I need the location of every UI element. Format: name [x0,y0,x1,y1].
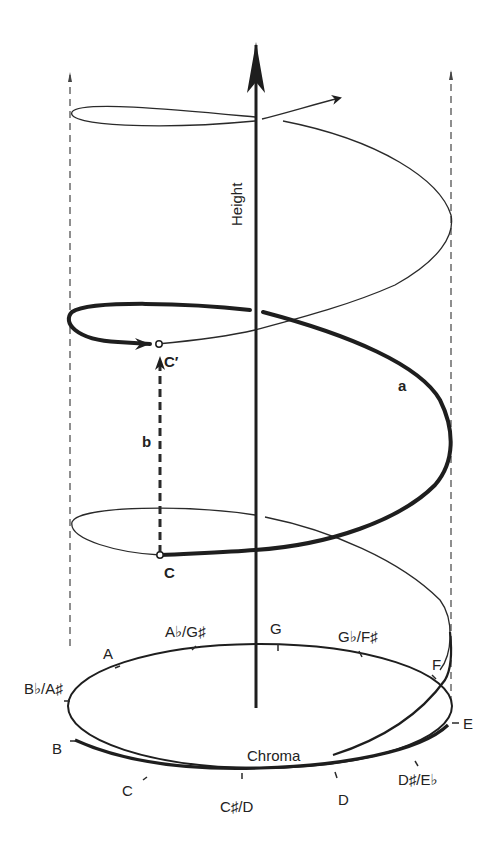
helix-strand-thin [72,98,452,670]
note-label-bb-asharp: B♭/A♯ [24,680,63,697]
segment-a-label: a [398,377,407,394]
pitch-helix-diagram: Height C C′ a b G G♭/F♯ F E D♯/E♭ D C♯/D [0,0,501,851]
note-label-g: G [270,620,282,637]
note-label-d: D [338,791,349,808]
note-label-e: E [463,715,473,732]
point-c-prime-label: C′ [164,353,179,370]
cylinder-boundary-right [449,70,453,700]
segment-b-label: b [142,433,151,450]
note-label-b: B [52,740,62,757]
octave-segment-b [155,356,165,553]
note-label-f: F [432,656,441,673]
note-label-dsharp-eb: D♯/E♭ [398,771,438,788]
note-label-gb-fsharp: G♭/F♯ [338,628,378,645]
point-c-prime [156,341,162,347]
point-c [157,552,163,558]
chroma-label: Chroma [247,747,301,764]
note-label-a: A [103,645,113,662]
cylinder-boundary-left [68,72,72,650]
note-label-csharp-d: C♯/D [220,798,254,815]
note-label-ab-gsharp: A♭/G♯ [165,623,206,640]
note-label-c: C [122,782,133,799]
height-axis [247,42,265,708]
height-axis-label: Height [228,182,245,226]
helix-strand-thick [69,304,451,555]
point-c-label: C [164,564,175,581]
